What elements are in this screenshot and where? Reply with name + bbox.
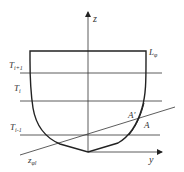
z-axis-label: z (92, 13, 97, 24)
waterline-mid-label: Ti (14, 83, 21, 94)
y-axis-label: y (148, 154, 154, 165)
waterline-lower-label: Ti-1 (10, 122, 22, 133)
point-a-label: A (143, 120, 150, 130)
waterline-upper-label: Ti+1 (9, 60, 23, 71)
inclined-waterline-label: zφl (27, 155, 37, 166)
point-a-prime-label: A′ (127, 110, 136, 120)
hull-section-diagram: z y Lφ Ti+1 Ti Ti-1 zφl A′ A (0, 0, 184, 172)
deck-line-label: Lφ (148, 47, 158, 58)
